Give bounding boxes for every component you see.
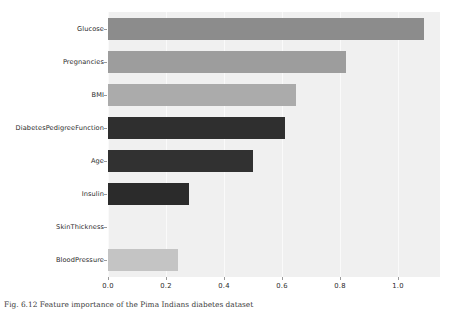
y-tick-mark bbox=[104, 227, 107, 228]
x-tick-label: 1.0 bbox=[392, 282, 403, 291]
x-tick-mark bbox=[166, 277, 167, 280]
x-tick-mark bbox=[398, 277, 399, 280]
y-tick-label: BloodPressure bbox=[56, 256, 104, 264]
x-axis: 0.00.20.40.60.81.0 bbox=[108, 277, 440, 293]
y-tick-label: Insulin bbox=[82, 190, 104, 198]
y-tick-label: Glucose bbox=[77, 25, 104, 33]
bar bbox=[108, 51, 346, 73]
bar bbox=[108, 18, 424, 40]
x-tick-label: 0.6 bbox=[276, 282, 287, 291]
x-tick-mark bbox=[340, 277, 341, 280]
y-tick-mark bbox=[104, 260, 107, 261]
x-tick-mark bbox=[282, 277, 283, 280]
bar bbox=[108, 249, 178, 271]
y-tick-mark bbox=[104, 194, 107, 195]
bar bbox=[108, 183, 189, 205]
y-tick-mark bbox=[104, 95, 107, 96]
x-tick-label: 0.2 bbox=[160, 282, 171, 291]
y-tick-label: Pregnancies bbox=[63, 58, 104, 66]
x-tick-mark bbox=[224, 277, 225, 280]
bar bbox=[108, 150, 253, 172]
x-tick-mark bbox=[108, 277, 109, 280]
y-tick-mark bbox=[104, 161, 107, 162]
y-tick-mark bbox=[104, 29, 107, 30]
bar-series bbox=[108, 12, 440, 277]
x-tick-label: 0.8 bbox=[334, 282, 345, 291]
y-tick-label: DiabetesPedigreeFunction bbox=[16, 124, 104, 132]
y-tick-mark bbox=[104, 128, 107, 129]
y-tick-label: BMI bbox=[92, 91, 104, 99]
x-tick-label: 0.4 bbox=[218, 282, 229, 291]
y-tick-mark bbox=[104, 62, 107, 63]
bar bbox=[108, 84, 296, 106]
y-axis: GlucosePregnanciesBMIDiabetesPedigreeFun… bbox=[0, 12, 104, 277]
x-tick-label: 0.0 bbox=[102, 282, 113, 291]
y-tick-label: SkinThickness bbox=[56, 223, 104, 231]
plot-area bbox=[108, 12, 440, 277]
bar bbox=[108, 117, 285, 139]
figure-container: GlucosePregnanciesBMIDiabetesPedigreeFun… bbox=[0, 0, 455, 311]
figure-caption: Fig. 6.12 Feature importance of the Pima… bbox=[4, 300, 451, 309]
y-tick-label: Age bbox=[91, 157, 104, 165]
